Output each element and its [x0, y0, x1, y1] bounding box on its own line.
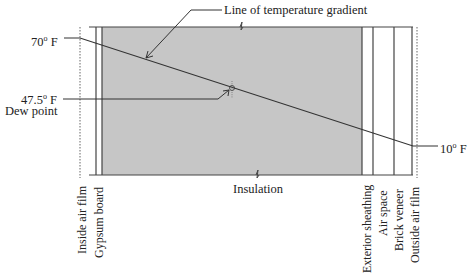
insulation-region	[102, 27, 362, 175]
layer-label-air-space: Air space	[376, 190, 391, 236]
gradient-callout-label: Line of temperature gradient	[224, 3, 367, 17]
layer-label-inside-air-film: Inside air film	[75, 186, 90, 254]
layer-label-brick-veneer: Brick veneer	[392, 189, 407, 251]
insulation-label: Insulation	[233, 182, 283, 196]
inside-temp-label: 70o F	[31, 32, 58, 49]
dew-point-label: Dew point	[5, 104, 57, 118]
layer-label-gypsum-board: Gypsum board	[92, 187, 107, 258]
outside-temp-label: 10o F	[440, 139, 467, 156]
layer-label-exterior-sheathing: Exterior sheathing	[360, 185, 375, 273]
layer-label-outside-air-film: Outside air film	[408, 187, 423, 263]
